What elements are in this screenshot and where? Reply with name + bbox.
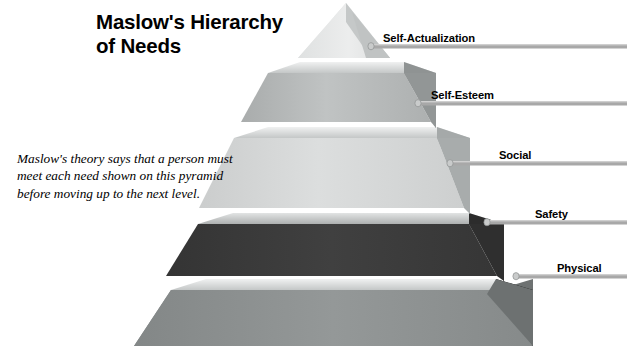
pyramid-tier-self-esteem[interactable] bbox=[241, 62, 436, 128]
page-title-line-2: of Needs bbox=[96, 34, 326, 58]
caption-line-1: Maslow's theory says that a person must bbox=[17, 150, 235, 167]
caption-line-3: before moving up to the next level. bbox=[17, 185, 235, 202]
caption-line-2: meet each need shown on this pyramid bbox=[17, 167, 235, 184]
tier-label-self-actualization[interactable]: Self-Actualization bbox=[383, 32, 475, 44]
tier-self-esteem-front-face bbox=[241, 73, 431, 122]
tier-social-top-slab bbox=[234, 127, 470, 138]
pyramid-tier-physical[interactable] bbox=[134, 279, 533, 346]
maslow-pyramid-infographic: Maslow's Hierarchy of Needs Maslow's the… bbox=[0, 0, 627, 354]
pyramid-tier-safety[interactable] bbox=[166, 213, 504, 281]
tier-physical-top-slab bbox=[171, 279, 533, 290]
leader-line-social bbox=[447, 160, 627, 167]
tier-safety-top-slab bbox=[198, 213, 504, 224]
page-title: Maslow's Hierarchy of Needs bbox=[96, 10, 326, 58]
tier-safety-front-face bbox=[166, 224, 497, 276]
tier-label-self-esteem[interactable]: Self-Esteem bbox=[431, 89, 494, 101]
tier-label-physical[interactable]: Physical bbox=[557, 262, 602, 274]
tier-physical-front-face-shape bbox=[134, 290, 533, 346]
pyramid-tier-social[interactable] bbox=[199, 127, 470, 214]
tier-social-front-face bbox=[199, 138, 464, 208]
tier-label-safety[interactable]: Safety bbox=[535, 208, 568, 220]
tier-label-social[interactable]: Social bbox=[499, 149, 531, 161]
caption-text: Maslow's theory says that a person must … bbox=[17, 150, 235, 202]
page-title-line-1: Maslow's Hierarchy bbox=[96, 10, 326, 34]
